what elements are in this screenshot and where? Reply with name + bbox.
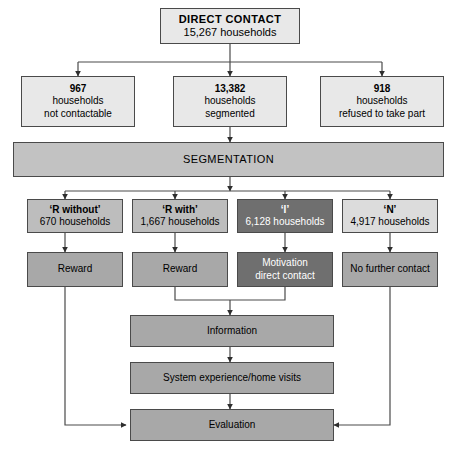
segment-r-without-label: ‘R without’ [49, 204, 100, 216]
action-reward-1-label: Reward [58, 263, 92, 275]
segment-r-with-count: 1,667 households [141, 216, 220, 228]
direct-contact-title: DIRECT CONTACT [179, 13, 282, 26]
not-contactable-line3: not contactable [44, 108, 112, 120]
node-segment-i: ‘I’ 6,128 households [237, 199, 333, 233]
segment-i-count: 6,128 households [246, 216, 325, 228]
node-action-reward-2: Reward [132, 252, 228, 287]
node-stage-information: Information [130, 315, 334, 347]
node-segmented: 13,382 households segmented [173, 76, 287, 127]
action-reward-2-label: Reward [163, 263, 197, 275]
action-motivation-line1: Motivation [262, 257, 308, 269]
segmentation-label: SEGMENTATION [183, 153, 274, 166]
not-contactable-count: 967 [70, 83, 87, 95]
node-action-reward-1: Reward [27, 252, 123, 287]
segment-n-count: 4,917 households [351, 216, 430, 228]
segment-i-label: ‘I’ [281, 204, 289, 216]
refused-line2: households [356, 95, 407, 107]
node-direct-contact: DIRECT CONTACT 15,267 households [160, 8, 300, 44]
segment-r-with-label: ‘R with’ [162, 204, 198, 216]
stage-evaluation-label: Evaluation [209, 419, 256, 431]
stage-information-label: Information [207, 325, 257, 337]
segment-r-without-count: 670 households [40, 216, 111, 228]
node-segment-r-without: ‘R without’ 670 households [27, 199, 123, 233]
node-action-no-further-contact: No further contact [342, 252, 438, 287]
node-segmentation-bar: SEGMENTATION [13, 142, 444, 177]
flowchart-diagram: DIRECT CONTACT 15,267 households 967 hou… [0, 0, 460, 456]
node-stage-system-experience: System experience/home visits [130, 362, 334, 394]
node-stage-evaluation: Evaluation [130, 409, 334, 441]
segmented-line3: segmented [205, 108, 254, 120]
refused-line3: refused to take part [339, 108, 425, 120]
node-segment-n: ‘N’ 4,917 households [342, 199, 438, 233]
action-motivation-line2: direct contact [255, 270, 314, 282]
stage-system-experience-label: System experience/home visits [163, 372, 301, 384]
direct-contact-count: 15,267 households [184, 26, 277, 39]
segment-n-label: ‘N’ [384, 204, 397, 216]
segmented-count: 13,382 [215, 83, 246, 95]
segmented-line2: households [204, 95, 255, 107]
node-not-contactable: 967 households not contactable [21, 76, 135, 127]
not-contactable-line2: households [52, 95, 103, 107]
node-segment-r-with: ‘R with’ 1,667 households [132, 199, 228, 233]
node-refused: 918 households refused to take part [320, 76, 444, 127]
node-action-motivation: Motivation direct contact [237, 252, 333, 287]
refused-count: 918 [374, 83, 391, 95]
action-no-further-contact-label: No further contact [350, 263, 429, 275]
